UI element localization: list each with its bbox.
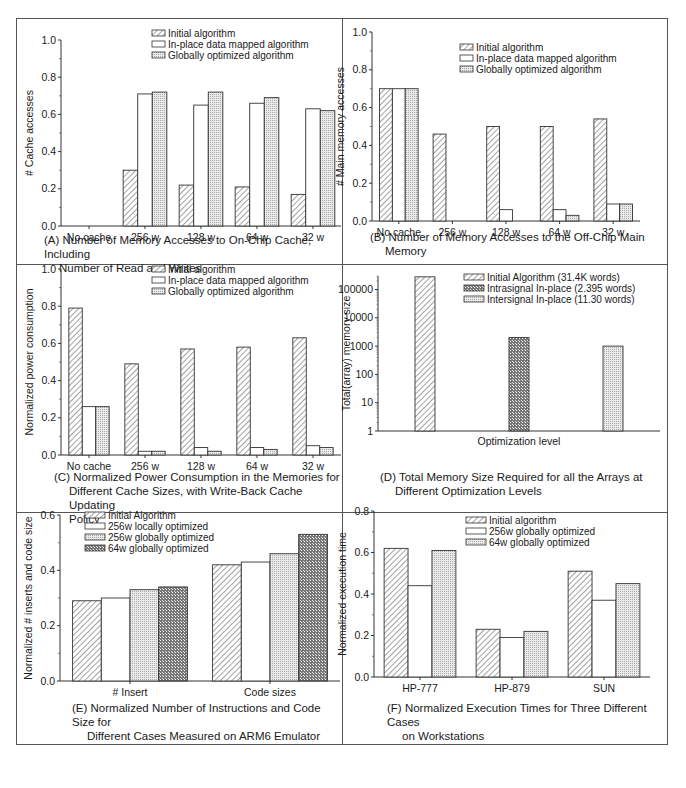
y-axis-label: # Main memory accesses [334, 67, 346, 186]
bar [392, 89, 405, 221]
bar [299, 534, 328, 681]
bar [213, 565, 242, 681]
legend-label: Globally optimized algorithm [168, 286, 294, 297]
y-tick-label: 0.0 [354, 671, 369, 683]
bar [123, 170, 138, 226]
y-tick-label: 1 [367, 425, 373, 437]
bar [553, 210, 566, 221]
legend-label: 64w globally optimized [108, 543, 209, 554]
bar [69, 308, 82, 455]
bar [476, 629, 500, 677]
bar [208, 92, 223, 226]
y-axis-label: Normalized # inserts and code size [22, 516, 34, 680]
bar [620, 204, 633, 221]
y-tick-label: 100000 [338, 283, 373, 295]
y-tick-label: 0.0 [41, 220, 56, 232]
figure-caption: (D) Total Memory Size Required for all t… [380, 470, 642, 498]
y-tick-label: 100 [355, 368, 373, 380]
bar [415, 277, 435, 431]
bar [540, 127, 553, 222]
y-tick-label: 0.6 [41, 337, 56, 349]
y-axis-label: Normalized power consumption [23, 288, 35, 435]
bar [250, 448, 263, 455]
y-tick-label: 0.8 [352, 63, 367, 75]
y-tick-label: 0.2 [40, 619, 55, 631]
bar [96, 407, 109, 455]
y-tick-label: 1000 [350, 340, 374, 352]
y-tick-label: 0.4 [354, 588, 369, 600]
bar [237, 347, 250, 455]
y-axis-label: # Cache accesses [23, 90, 35, 176]
legend: Initial algorithmIn-place data mapped al… [460, 42, 617, 75]
legend-label: 256w globally optimized [489, 526, 595, 537]
bar [306, 446, 319, 455]
y-tick-label: 0.8 [41, 71, 56, 83]
bar [235, 187, 250, 226]
bar [159, 587, 188, 681]
x-tick-label: # Insert [112, 686, 147, 698]
y-tick-label: 0.6 [40, 509, 55, 521]
x-tick-label: HP-879 [494, 682, 530, 694]
y-tick-label: 0.6 [41, 108, 56, 120]
y-tick-label: 0.2 [41, 411, 56, 423]
bars [123, 92, 335, 226]
bar [487, 127, 500, 222]
bar [179, 185, 194, 226]
x-tick-label: SUN [593, 682, 615, 694]
legend-label: In-place data mapped algorithm [168, 275, 309, 286]
bar [500, 638, 524, 677]
legend: Initial Algorithm (31.4K words)Intrasign… [464, 272, 635, 305]
y-tick-label: 0.0 [40, 675, 55, 687]
caption-line: (F) Normalized Execution Times for Three… [387, 701, 668, 729]
bar [509, 338, 529, 431]
y-tick-label: 0.8 [41, 300, 56, 312]
bar [433, 134, 446, 221]
legend: Initial algorithm256w globally optimized… [466, 515, 595, 548]
bar [603, 346, 623, 431]
bar [181, 349, 194, 455]
bar [408, 586, 432, 677]
bar [130, 590, 159, 681]
figure-caption: (E) Normalized Number of Instructions an… [72, 701, 342, 743]
caption-line: Memory [370, 244, 645, 258]
y-tick-label: 0.0 [352, 215, 367, 227]
bar [616, 584, 640, 677]
bar [607, 204, 620, 221]
y-axis-label: Total(array) memory size [340, 296, 352, 412]
legend-label: Initial algorithm [489, 515, 556, 526]
legend-label: 64w globally optimized [489, 537, 590, 548]
y-tick-label: 0.2 [352, 177, 367, 189]
x-axis-label: Optimization level [478, 435, 561, 447]
bar [568, 571, 592, 677]
chart-panel-b: 0.00.20.40.60.81.0# Main memory accesses… [342, 18, 668, 263]
chart-panel-f: 0.00.20.40.60.8Normalized execution time… [342, 511, 668, 745]
bar [194, 448, 207, 455]
legend-label: Initial Algorithm [108, 510, 176, 521]
y-tick-label: 0.8 [354, 505, 369, 517]
bar [73, 601, 102, 681]
chart-panel-d: 110100100010000100000Total(array) memory… [342, 263, 668, 511]
y-tick-label: 0.4 [40, 564, 55, 576]
legend-label: Intersignal In-place (11.30 words) [487, 294, 635, 305]
figure-caption: (F) Normalized Execution Times for Three… [387, 701, 668, 743]
legend-label: 256w locally optimized [108, 521, 208, 532]
caption-line: (A) Number of Memory Accesses to On-Chip… [44, 233, 342, 261]
y-tick-label: 0.2 [41, 182, 56, 194]
y-tick-label: 0.4 [41, 145, 56, 157]
caption-line: on Workstations [387, 729, 668, 743]
bar [250, 103, 265, 226]
legend-label: In-place data mapped algorithm [476, 53, 617, 64]
y-tick-label: 0.4 [41, 374, 56, 386]
bars [380, 89, 633, 221]
x-tick-label: HP-777 [402, 682, 438, 694]
bar [405, 89, 418, 221]
y-tick-label: 10 [361, 396, 373, 408]
caption-line: (B) Number of Memory Accesses to the Off… [370, 230, 645, 244]
bar [208, 451, 221, 455]
bar [293, 338, 306, 455]
bar [291, 194, 306, 226]
y-axis-label: Normalized execution time [336, 532, 348, 656]
y-tick-label: 1.0 [352, 26, 367, 38]
caption-line: (D) Total Memory Size Required for all t… [380, 470, 642, 484]
caption-line: Different Cases Measured on ARM6 Emulato… [72, 729, 342, 743]
